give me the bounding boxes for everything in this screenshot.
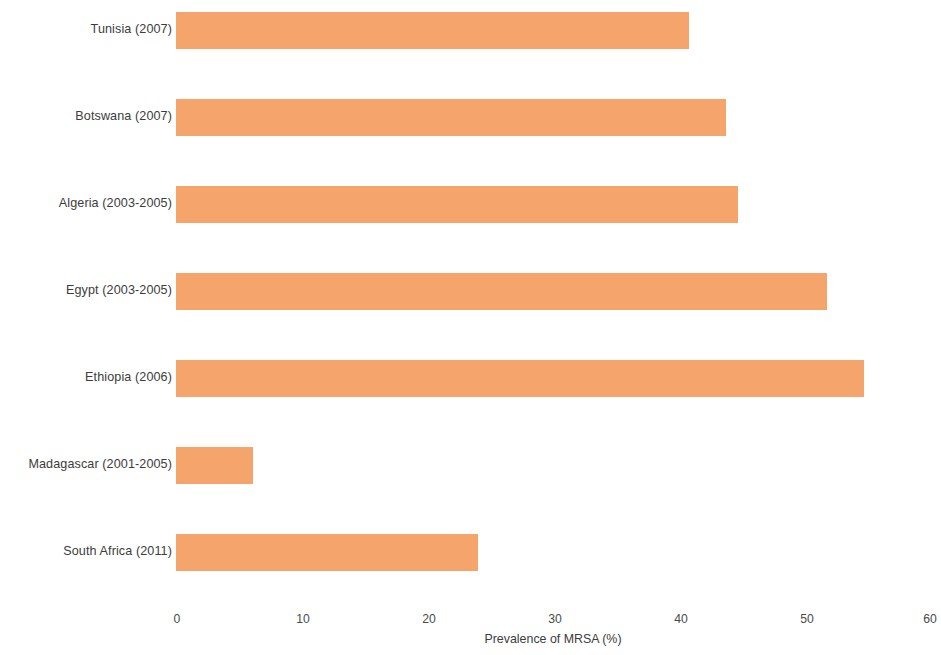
bar-south-africa [176,534,478,571]
category-label-south-africa: South Africa (2011) [7,544,172,558]
x-tick-10: 10 [296,612,310,626]
category-label-tunisia: Tunisia (2007) [7,22,172,36]
category-label-wrap: Botswana (2007) [0,109,172,127]
bar-ethiopia [176,360,864,397]
x-tick-30: 30 [548,612,562,626]
bar-madagascar [176,447,253,484]
category-label-wrap: Ethiopia (2006) [0,370,172,388]
bar-tunisia [176,12,689,49]
category-label-wrap: Algeria (2003-2005) [0,196,172,214]
category-label-wrap: Tunisia (2007) [0,22,172,40]
x-tick-60: 60 [923,612,937,626]
x-tick-50: 50 [800,612,814,626]
bar-botswana [176,99,726,136]
category-label-madagascar: Madagascar (2001-2005) [7,457,172,471]
category-label-wrap: Madagascar (2001-2005) [0,457,172,475]
category-label-ethiopia: Ethiopia (2006) [7,370,172,384]
category-label-wrap: Egypt (2003-2005) [0,283,172,301]
category-label-wrap: South Africa (2011) [0,544,172,562]
plot-area: Tunisia (2007) Botswana (2007) Algeria (… [0,0,941,600]
x-tick-20: 20 [422,612,436,626]
category-label-botswana: Botswana (2007) [7,109,172,123]
x-tick-40: 40 [674,612,688,626]
category-label-algeria: Algeria (2003-2005) [7,196,172,210]
bar-algeria [176,186,738,223]
category-label-egypt: Egypt (2003-2005) [7,283,172,297]
mrsa-prevalence-bar-chart: Tunisia (2007) Botswana (2007) Algeria (… [0,0,941,655]
x-axis: 0 10 20 30 40 50 60 Prevalence of MRSA (… [0,600,941,655]
x-axis-title: Prevalence of MRSA (%) [484,632,621,646]
x-tick-0: 0 [174,612,181,626]
bar-egypt [176,273,827,310]
